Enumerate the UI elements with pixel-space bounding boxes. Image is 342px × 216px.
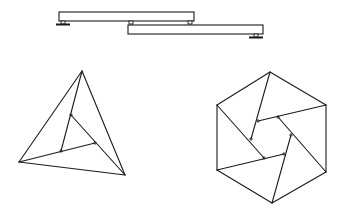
- middle-pin-support: [129, 21, 133, 24]
- triangle-outer-edge: [19, 162, 125, 175]
- reciprocal-structures-diagram: [0, 0, 342, 216]
- hexagon-member: [278, 117, 326, 172]
- hexagon-member: [258, 105, 326, 121]
- upper-right-pin-support: [188, 21, 192, 24]
- hexagon-outer-edge: [217, 170, 272, 203]
- lower-beam: [128, 25, 263, 34]
- triangle-member: [61, 71, 82, 151]
- hexagon-outer-edge: [272, 172, 326, 203]
- hexagon-member: [272, 135, 291, 203]
- upper-beam: [59, 12, 194, 21]
- triangle-member: [71, 115, 125, 175]
- overlapping-beams-figure: [56, 12, 263, 38]
- hexagon-outer-edge: [270, 72, 326, 105]
- triangular-reciprocal-frame: [19, 71, 125, 175]
- triangle-outer-edge: [82, 71, 125, 175]
- hexagon-member: [217, 154, 284, 170]
- hexagon-member: [217, 105, 264, 158]
- hexagonal-reciprocal-frame: [217, 72, 326, 203]
